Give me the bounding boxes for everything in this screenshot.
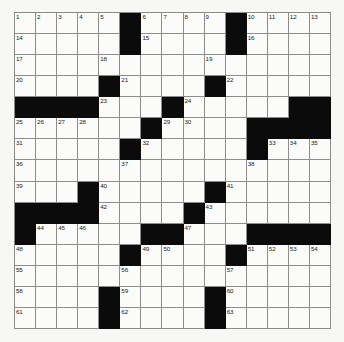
letter-cell[interactable] (78, 287, 99, 308)
letter-cell[interactable] (57, 34, 78, 55)
letter-cell[interactable] (162, 266, 183, 287)
letter-cell[interactable] (78, 139, 99, 160)
letter-cell[interactable] (141, 97, 162, 118)
letter-cell[interactable] (226, 139, 247, 160)
letter-cell[interactable] (247, 266, 268, 287)
letter-cell-numbered[interactable]: 15 (141, 34, 162, 55)
letter-cell-numbered[interactable]: 27 (57, 118, 78, 139)
letter-cell[interactable] (289, 76, 310, 97)
letter-cell-numbered[interactable]: 59 (120, 287, 141, 308)
letter-cell-numbered[interactable]: 34 (289, 139, 310, 160)
letter-cell[interactable] (289, 182, 310, 203)
letter-cell[interactable] (226, 203, 247, 224)
letter-cell-numbered[interactable]: 30 (184, 118, 205, 139)
letter-cell-numbered[interactable]: 19 (205, 55, 226, 76)
letter-cell[interactable] (289, 203, 310, 224)
letter-cell-numbered[interactable]: 62 (120, 308, 141, 329)
letter-cell[interactable] (310, 160, 331, 181)
letter-cell-numbered[interactable]: 18 (99, 55, 120, 76)
letter-cell[interactable] (247, 308, 268, 329)
letter-cell[interactable] (310, 203, 331, 224)
letter-cell-numbered[interactable]: 21 (120, 76, 141, 97)
letter-cell[interactable] (184, 287, 205, 308)
letter-cell[interactable] (268, 97, 289, 118)
letter-cell-numbered[interactable]: 5 (99, 13, 120, 34)
letter-cell-numbered[interactable]: 47 (184, 224, 205, 245)
letter-cell[interactable] (205, 97, 226, 118)
letter-cell[interactable] (78, 76, 99, 97)
letter-cell[interactable] (162, 55, 183, 76)
letter-cell[interactable] (36, 308, 57, 329)
letter-cell[interactable] (120, 203, 141, 224)
letter-cell[interactable] (247, 182, 268, 203)
letter-cell[interactable] (36, 55, 57, 76)
letter-cell[interactable] (99, 139, 120, 160)
letter-cell[interactable] (205, 245, 226, 266)
letter-cell[interactable] (184, 34, 205, 55)
letter-cell[interactable] (78, 34, 99, 55)
letter-cell[interactable] (205, 266, 226, 287)
letter-cell-numbered[interactable]: 44 (36, 224, 57, 245)
letter-cell-numbered[interactable]: 49 (141, 245, 162, 266)
letter-cell[interactable] (99, 118, 120, 139)
letter-cell[interactable] (99, 266, 120, 287)
letter-cell[interactable] (247, 55, 268, 76)
letter-cell[interactable] (268, 182, 289, 203)
letter-cell-numbered[interactable]: 60 (226, 287, 247, 308)
letter-cell[interactable] (162, 308, 183, 329)
letter-cell[interactable] (289, 287, 310, 308)
letter-cell[interactable] (120, 118, 141, 139)
letter-cell-numbered[interactable]: 8 (184, 13, 205, 34)
letter-cell[interactable] (57, 182, 78, 203)
letter-cell-numbered[interactable]: 1 (15, 13, 36, 34)
letter-cell[interactable] (268, 34, 289, 55)
letter-cell[interactable] (184, 55, 205, 76)
letter-cell[interactable] (184, 76, 205, 97)
letter-cell[interactable] (247, 287, 268, 308)
letter-cell-numbered[interactable]: 41 (226, 182, 247, 203)
letter-cell[interactable] (57, 308, 78, 329)
letter-cell[interactable] (289, 34, 310, 55)
letter-cell[interactable] (184, 160, 205, 181)
letter-cell-numbered[interactable]: 10 (247, 13, 268, 34)
letter-cell-numbered[interactable]: 51 (247, 245, 268, 266)
letter-cell[interactable] (184, 182, 205, 203)
letter-cell[interactable] (247, 97, 268, 118)
letter-cell-numbered[interactable]: 58 (15, 287, 36, 308)
letter-cell[interactable] (36, 160, 57, 181)
letter-cell[interactable] (205, 118, 226, 139)
letter-cell[interactable] (162, 160, 183, 181)
letter-cell-numbered[interactable]: 9 (205, 13, 226, 34)
letter-cell[interactable] (57, 160, 78, 181)
letter-cell[interactable] (120, 55, 141, 76)
letter-cell-numbered[interactable]: 14 (15, 34, 36, 55)
letter-cell[interactable] (36, 139, 57, 160)
letter-cell[interactable] (78, 160, 99, 181)
letter-cell[interactable] (162, 139, 183, 160)
letter-cell[interactable] (310, 182, 331, 203)
letter-cell-numbered[interactable]: 6 (141, 13, 162, 34)
letter-cell[interactable] (141, 308, 162, 329)
letter-cell[interactable] (247, 203, 268, 224)
letter-cell[interactable] (162, 76, 183, 97)
letter-cell[interactable] (120, 182, 141, 203)
letter-cell[interactable] (120, 97, 141, 118)
letter-cell[interactable] (289, 308, 310, 329)
letter-cell[interactable] (141, 287, 162, 308)
letter-cell[interactable] (310, 308, 331, 329)
letter-cell-numbered[interactable]: 12 (289, 13, 310, 34)
letter-cell[interactable] (247, 76, 268, 97)
letter-cell-numbered[interactable]: 29 (162, 118, 183, 139)
letter-cell-numbered[interactable]: 22 (226, 76, 247, 97)
letter-cell-numbered[interactable]: 38 (247, 160, 268, 181)
letter-cell-numbered[interactable]: 24 (184, 97, 205, 118)
letter-cell[interactable] (184, 245, 205, 266)
letter-cell-numbered[interactable]: 40 (99, 182, 120, 203)
letter-cell[interactable] (99, 245, 120, 266)
letter-cell-numbered[interactable]: 48 (15, 245, 36, 266)
letter-cell[interactable] (57, 266, 78, 287)
letter-cell[interactable] (268, 287, 289, 308)
letter-cell-numbered[interactable]: 7 (162, 13, 183, 34)
crossword-grid[interactable]: 1234567891011121314151617181920212223242… (14, 12, 331, 329)
letter-cell-numbered[interactable]: 50 (162, 245, 183, 266)
